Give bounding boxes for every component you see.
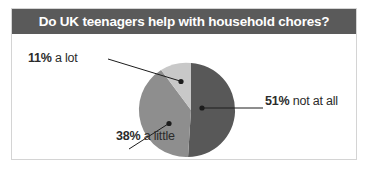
chart-figure: Do UK teenagers help with household chor…	[11, 8, 357, 160]
pie-label-a-little-pct: 38%	[116, 129, 140, 143]
leader-dot-not-at-all	[199, 105, 204, 110]
leader-dot-a-little	[166, 121, 171, 126]
pie-label-a-lot-pct: 11%	[28, 51, 52, 65]
page-title: Do UK teenagers help with household chor…	[39, 14, 330, 29]
pie-label-a-lot: 11% a lot	[28, 51, 78, 65]
pie-label-a-lot-text: a lot	[52, 51, 78, 65]
pie-slice-not-at-all[interactable]	[188, 63, 235, 157]
pie-label-a-little-text: a little	[140, 129, 174, 143]
leader-dot-a-lot	[178, 79, 183, 84]
pie-label-not-at-all-text: not at all	[289, 94, 338, 108]
pie-chart-plot-area: 11% a lot 38% a little 51% not at all	[12, 34, 356, 159]
chart-title-bar: Do UK teenagers help with household chor…	[12, 9, 356, 34]
pie-label-not-at-all: 51% not at all	[265, 94, 338, 108]
pie-label-not-at-all-pct: 51%	[265, 94, 289, 108]
pie-label-a-little: 38% a little	[116, 129, 175, 143]
